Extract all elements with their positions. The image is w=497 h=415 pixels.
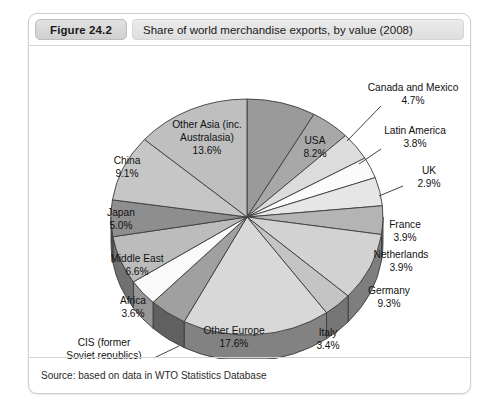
pie-label-france: France3.9% — [389, 219, 421, 243]
figure-header: Figure 24.2 Share of world merchandise e… — [29, 14, 470, 46]
pie-chart-svg: USA8.2%Canada and Mexico4.7%Latin Americ… — [29, 46, 470, 359]
pie-label-canada-and-mexico: Canada and Mexico4.7% — [368, 82, 459, 106]
leader-line-uk — [379, 186, 403, 196]
pie-label-germany: Germany9.3% — [368, 285, 411, 309]
pie-label-cis-former-soviet-republics: CIS (formerSoviet republics)4.5% — [66, 337, 141, 359]
figure-number-badge: Figure 24.2 — [35, 19, 127, 40]
pie-label-uk: UK2.9% — [417, 165, 440, 189]
pie-top-surface — [111, 99, 383, 335]
source-note: Source: based on data in WTO Statistics … — [41, 370, 267, 381]
pie-label-latin-america: Latin America3.8% — [384, 125, 446, 149]
figure-footer: Source: based on data in WTO Statistics … — [29, 357, 470, 393]
figure-title: Share of world merchandise exports, by v… — [132, 19, 464, 40]
figure-card: Figure 24.2 Share of world merchandise e… — [28, 13, 471, 394]
leader-line-canada-and-mexico — [347, 106, 381, 141]
pie-chart-area: USA8.2%Canada and Mexico4.7%Latin Americ… — [29, 46, 470, 359]
